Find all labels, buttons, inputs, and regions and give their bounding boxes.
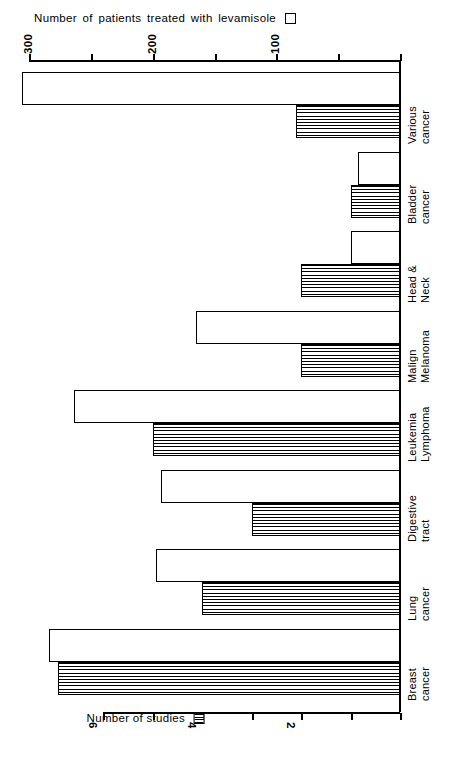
studies-tick (301, 713, 303, 720)
bar-patients (161, 470, 400, 503)
bar-studies (202, 582, 400, 615)
bar-patients (74, 390, 400, 423)
category-label-line2: Lymphoma (419, 406, 432, 462)
bar-patients (22, 72, 400, 105)
category-label: Variouscancer (406, 106, 431, 144)
patients-tick (29, 54, 31, 61)
studies-tick (252, 713, 254, 720)
category-label-line2: cancer (419, 587, 432, 621)
category-label-line1: Bladder (406, 184, 418, 223)
category-label-line1: Breast (406, 668, 418, 701)
category-label-line2: cancer (419, 666, 432, 700)
bar-patients (351, 231, 400, 264)
category-label: Breastcancer (406, 666, 431, 700)
bar-patients (358, 152, 400, 185)
category-label-line1: Leukemia (406, 413, 418, 462)
patients-tick (276, 54, 278, 61)
bar-studies (351, 185, 401, 218)
patients-legend: Number of patients treated with levamiso… (34, 9, 296, 27)
patients-tick (153, 54, 155, 61)
category-label: LeukemiaLymphoma (406, 406, 431, 462)
bar-studies (153, 423, 401, 456)
studies-legend: Number of studies (87, 710, 205, 726)
bar-patients (156, 549, 400, 582)
category-label-line1: Various (406, 106, 418, 144)
category-label-line1: Malign (406, 349, 418, 383)
patients-tick (338, 54, 340, 61)
bar-studies (301, 264, 400, 297)
patients-tick-label: 200 (146, 34, 158, 54)
patients-tick (215, 54, 217, 61)
patients-tick (400, 54, 402, 61)
patients-tick (91, 54, 93, 61)
bar-studies (296, 105, 400, 138)
category-label-line1: Digestive (406, 494, 418, 541)
bar-studies (58, 662, 400, 695)
category-label-line2: tract (419, 494, 432, 541)
category-label-line2: Neck (419, 265, 432, 303)
bar-patients (49, 629, 400, 662)
bar-studies (301, 344, 400, 377)
studies-tick (400, 713, 402, 720)
patients-legend-label: Number of patients treated with levamiso… (34, 12, 276, 24)
category-label-line2: cancer (419, 184, 432, 223)
studies-tick-label: 2 (285, 722, 297, 729)
patients-tick-label: 300 (22, 34, 34, 54)
patients-axis: 300200100 (29, 60, 400, 61)
category-label-line2: Melanoma (419, 330, 432, 383)
category-label-line2: cancer (419, 106, 432, 144)
studies-tick (351, 713, 353, 720)
category-label: Bladdercancer (406, 184, 431, 223)
category-label: Head &Neck (406, 265, 431, 303)
category-label: Lungcancer (406, 587, 431, 621)
hatched-square-swatch-icon (194, 713, 205, 724)
levamisole-bar-chart: Number of patients treated with levamiso… (0, 0, 455, 757)
category-label-line1: Lung (406, 596, 418, 621)
bar-studies (252, 503, 401, 536)
open-square-swatch-icon (285, 13, 296, 24)
studies-legend-label: Number of studies (87, 712, 185, 724)
category-label: MalignMelanoma (406, 330, 431, 383)
patients-tick-label: 100 (269, 34, 281, 54)
category-label-line1: Head & (406, 265, 418, 303)
category-label: Digestivetract (406, 494, 431, 541)
bar-patients (196, 311, 400, 344)
